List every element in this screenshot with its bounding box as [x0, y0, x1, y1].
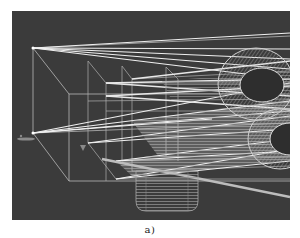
lower-source-point [32, 132, 35, 135]
bottom-housing [136, 171, 198, 211]
upper-source-point [32, 47, 35, 50]
figure-caption: a) [0, 224, 300, 235]
wireframe-scene [12, 11, 290, 220]
source-markers [17, 135, 86, 151]
figure: a) [0, 0, 300, 238]
render-viewport [12, 11, 290, 220]
